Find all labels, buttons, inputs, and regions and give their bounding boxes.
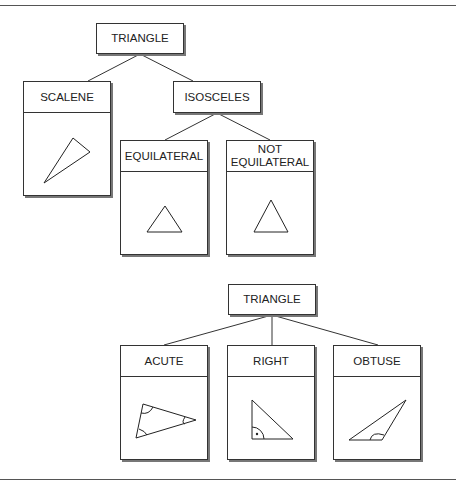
node-label: TRIANGLE bbox=[229, 285, 315, 314]
acute-node: ACUTE bbox=[120, 345, 208, 460]
node-label: OBTUSE bbox=[334, 346, 420, 377]
node-label: EQUILATERAL bbox=[121, 141, 207, 172]
obtuse-node: OBTUSE bbox=[333, 345, 421, 460]
triangle-root-node-2: TRIANGLE bbox=[228, 284, 316, 315]
node-label: RIGHT bbox=[228, 346, 314, 377]
equilateral-node: EQUILATERAL bbox=[120, 140, 208, 255]
label-line-2: EQUILATERAL bbox=[231, 156, 309, 168]
not-equilateral-node: NOTEQUILATERAL bbox=[226, 140, 314, 255]
obtuse-triangle-icon bbox=[334, 377, 422, 461]
isosceles-triangle-icon bbox=[227, 172, 315, 256]
node-label: SCALENE bbox=[24, 82, 110, 113]
scalene-triangle-icon bbox=[24, 113, 112, 197]
isosceles-node: ISOSCELES bbox=[173, 81, 261, 113]
scalene-node: SCALENE bbox=[23, 81, 111, 196]
node-label: TRIANGLE bbox=[97, 24, 183, 53]
node-label: ACUTE bbox=[121, 346, 207, 377]
node-label: ISOSCELES bbox=[174, 82, 260, 112]
right-triangle-icon bbox=[228, 377, 316, 461]
triangle-root-node: TRIANGLE bbox=[96, 23, 184, 54]
equilateral-triangle-icon bbox=[121, 172, 209, 256]
node-label: NOTEQUILATERAL bbox=[227, 141, 313, 172]
right-node: RIGHT bbox=[227, 345, 315, 460]
acute-triangle-icon bbox=[121, 377, 209, 461]
label-line-1: NOT bbox=[258, 143, 282, 155]
